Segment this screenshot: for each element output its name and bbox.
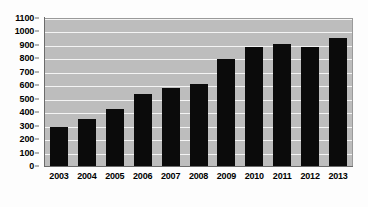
x-axis-tick-labels: 2003200420052006200720082009201020112012…	[45, 171, 352, 189]
y-axis-tick-mark	[35, 112, 39, 113]
y-axis-tick-labels: 010020030040050060070080090010001100	[0, 0, 41, 207]
y-axis-tick-mark	[35, 139, 39, 140]
y-axis-tick-mark	[35, 58, 39, 59]
y-axis-tick-label: 100	[20, 148, 34, 157]
x-axis-tick-label: 2004	[77, 171, 96, 182]
x-axis-tick-label: 2008	[189, 171, 208, 182]
x-axis-tick-label: 2005	[105, 171, 124, 182]
y-axis-tick-label: 200	[20, 135, 34, 144]
y-axis-tick-label: 300	[20, 121, 34, 130]
y-axis-tick-mark	[35, 85, 39, 86]
x-axis-tick-label: 2013	[328, 171, 347, 182]
y-axis-tick-mark	[35, 125, 39, 126]
bar	[245, 47, 263, 167]
x-axis-tick-label: 2011	[273, 171, 292, 182]
y-axis-tick-mark	[35, 44, 39, 45]
y-axis-line	[44, 17, 45, 167]
x-axis-tick-label: 2012	[301, 171, 320, 182]
y-axis-tick-label: 400	[20, 108, 34, 117]
bar	[106, 109, 124, 167]
bar	[329, 38, 347, 167]
bar	[273, 44, 291, 167]
y-axis-tick-mark	[35, 166, 39, 167]
bar	[50, 127, 68, 167]
plot-area	[45, 18, 353, 167]
bar	[301, 47, 319, 167]
y-axis-tick-label: 1100	[15, 14, 34, 23]
x-axis-tick-label: 2009	[217, 171, 236, 182]
y-axis-tick-label: 500	[20, 94, 34, 103]
x-axis-tick-label: 2006	[133, 171, 152, 182]
x-axis-tick-label: 2003	[49, 171, 68, 182]
x-axis-tick-label: 2010	[245, 171, 264, 182]
y-axis-tick-label: 600	[20, 81, 34, 90]
y-axis-tick-mark	[35, 18, 39, 19]
y-axis-tick-mark	[35, 31, 39, 32]
y-axis-tick-label: 700	[20, 67, 34, 76]
bar	[134, 94, 152, 167]
bar	[217, 59, 235, 167]
y-axis-tick-label: 1000	[15, 27, 34, 36]
y-axis-tick-mark	[35, 152, 39, 153]
bar-chart-figure: 010020030040050060070080090010001100 200…	[0, 0, 368, 207]
bar	[190, 84, 208, 167]
y-axis-tick-label: 0	[29, 162, 34, 171]
y-axis-tick-mark	[35, 98, 39, 99]
y-axis-tick-label: 800	[20, 54, 34, 63]
bar	[78, 119, 96, 167]
bar	[162, 88, 180, 167]
x-axis-line	[44, 166, 353, 167]
bars-layer	[45, 19, 352, 167]
y-axis-tick-mark	[35, 71, 39, 72]
x-axis-tick-label: 2007	[161, 171, 180, 182]
y-axis-tick-label: 900	[20, 40, 34, 49]
